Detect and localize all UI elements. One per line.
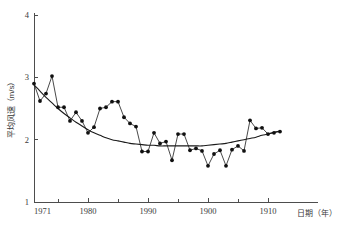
y-tick-label: 4 <box>25 10 30 20</box>
data-point <box>152 131 156 135</box>
data-point <box>260 126 264 130</box>
y-tick-label: 3 <box>25 72 29 82</box>
data-point <box>218 148 222 152</box>
data-point <box>98 107 102 111</box>
data-point <box>116 100 120 104</box>
y-axis-title: 平均风速（m/s） <box>6 78 16 139</box>
data-point <box>110 100 114 104</box>
trend-curve <box>34 85 280 146</box>
data-point <box>68 119 72 123</box>
data-point <box>230 148 234 152</box>
x-tick-label: 1900 <box>200 206 217 216</box>
data-point <box>266 132 270 136</box>
data-point <box>188 148 192 152</box>
x-axis-ticks: 19711980199019001910 <box>34 198 277 216</box>
chart-canvas: 4321 19711980199019001910 日期（年） 平均风速（m/s… <box>0 0 350 231</box>
y-tick-label: 1 <box>25 197 29 207</box>
data-point <box>134 125 138 129</box>
data-point <box>194 146 198 150</box>
data-point <box>164 140 168 144</box>
data-point <box>182 132 186 136</box>
data-point <box>122 115 126 119</box>
data-point <box>62 105 66 109</box>
data-point <box>38 99 42 103</box>
data-point <box>212 152 216 156</box>
data-point <box>44 92 48 96</box>
data-point <box>206 164 210 168</box>
y-tick-label: 2 <box>25 135 29 145</box>
data-point <box>50 74 54 78</box>
data-point-markers <box>32 74 282 168</box>
data-point <box>104 105 108 109</box>
data-point <box>200 149 204 153</box>
data-point <box>242 149 246 153</box>
data-point <box>158 142 162 146</box>
data-point <box>92 125 96 129</box>
data-point <box>146 150 150 154</box>
data-point <box>278 130 282 134</box>
data-point <box>236 144 240 148</box>
x-tick-label: 1910 <box>260 206 277 216</box>
data-point <box>224 164 228 168</box>
data-point <box>254 127 258 131</box>
wind-speed-chart: 4321 19711980199019001910 日期（年） 平均风速（m/s… <box>0 0 350 231</box>
data-point <box>128 122 132 126</box>
data-point <box>86 131 90 135</box>
data-point <box>248 118 252 122</box>
data-point <box>80 119 84 123</box>
data-point <box>56 105 60 109</box>
data-point <box>170 158 174 162</box>
y-axis-ticks: 4321 <box>25 10 38 207</box>
x-tick-label: 1971 <box>34 206 51 216</box>
x-axis-title: 日期（年） <box>297 208 337 218</box>
data-point <box>176 132 180 136</box>
x-tick-label: 1980 <box>80 206 97 216</box>
data-point <box>74 110 78 114</box>
data-point <box>140 150 144 154</box>
x-tick-label: 1990 <box>140 206 157 216</box>
data-point <box>32 82 36 86</box>
data-point <box>272 131 276 135</box>
